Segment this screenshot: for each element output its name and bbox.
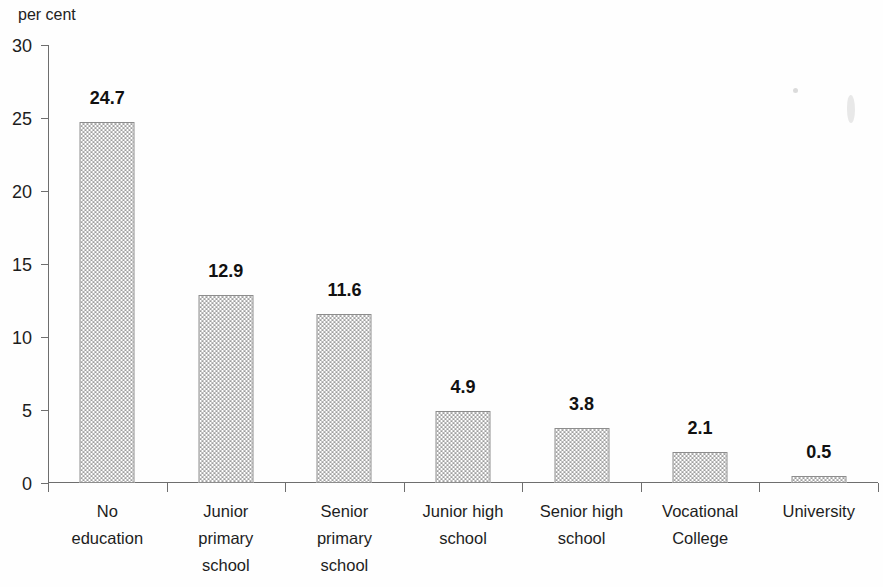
- category-label-line: primary: [285, 525, 404, 552]
- category-label-line: education: [48, 525, 167, 552]
- bar-slot: 0.5: [759, 45, 878, 483]
- category-label-line: No: [48, 498, 167, 525]
- x-axis-tick: [878, 483, 879, 492]
- bar-slot: 12.9: [167, 45, 286, 483]
- x-axis-tick: [641, 483, 642, 492]
- category-label-line: Senior: [285, 498, 404, 525]
- y-axis-tick-label: 25: [12, 110, 32, 128]
- bar-value-label: 24.7: [90, 88, 125, 108]
- x-axis-tick: [167, 483, 168, 492]
- bar-chart-figure: per cent 051015202530 24.712.911.64.93.8…: [0, 0, 883, 587]
- bar-value-label: 2.1: [688, 418, 713, 438]
- x-axis-tick: [759, 483, 760, 492]
- bar-value-label: 4.9: [450, 377, 475, 397]
- x-axis-category-label: Senior highschool: [522, 498, 641, 552]
- category-label-line: Junior high: [404, 498, 523, 525]
- category-label-line: Senior high: [522, 498, 641, 525]
- bar: [673, 452, 728, 483]
- x-axis-category-label: University: [759, 498, 878, 525]
- bar-value-label: 12.9: [208, 261, 243, 281]
- bar: [317, 314, 372, 483]
- x-axis-category-labels: NoeducationJuniorprimaryschoolSeniorprim…: [48, 498, 878, 584]
- scan-speck-artifact: [793, 88, 798, 93]
- x-axis-tick: [285, 483, 286, 492]
- bar-slot: 3.8: [522, 45, 641, 483]
- scan-smudge-artifact: [847, 95, 855, 123]
- bar-slot: 11.6: [285, 45, 404, 483]
- y-axis-tick-label: 30: [12, 37, 32, 55]
- x-axis-category-label: Junior highschool: [404, 498, 523, 552]
- category-label-line: school: [404, 525, 523, 552]
- bar: [80, 122, 135, 483]
- bar: [198, 295, 253, 483]
- x-axis-tick: [48, 483, 49, 492]
- x-axis-category-label: Noeducation: [48, 498, 167, 552]
- bar-slot: 2.1: [641, 45, 760, 483]
- x-axis-tick: [404, 483, 405, 492]
- bar-slot: 4.9: [404, 45, 523, 483]
- y-axis-tick-label: 5: [22, 402, 32, 420]
- plot-area: 051015202530 24.712.911.64.93.82.10.5: [48, 45, 878, 483]
- category-label-line: school: [285, 552, 404, 579]
- category-label-line: school: [522, 525, 641, 552]
- bar: [791, 476, 846, 483]
- x-axis-category-label: Seniorprimaryschool: [285, 498, 404, 579]
- y-axis-tick-label: 10: [12, 329, 32, 347]
- bar-value-label: 3.8: [569, 394, 594, 414]
- y-axis-tick-label: 15: [12, 256, 32, 274]
- bar-value-label: 11.6: [327, 280, 361, 300]
- category-label-line: Junior: [167, 498, 286, 525]
- bar-series: 24.712.911.64.93.82.10.5: [48, 45, 878, 483]
- category-label-line: primary: [167, 525, 286, 552]
- y-axis-unit-caption: per cent: [18, 6, 76, 24]
- bar-value-label: 0.5: [806, 442, 831, 462]
- x-axis-category-label: Juniorprimaryschool: [167, 498, 286, 579]
- y-axis-tick-label: 0: [22, 475, 32, 493]
- category-label-line: school: [167, 552, 286, 579]
- category-label-line: Vocational: [641, 498, 760, 525]
- x-axis-category-label: VocationalCollege: [641, 498, 760, 552]
- bar-slot: 24.7: [48, 45, 167, 483]
- category-label-line: University: [759, 498, 878, 525]
- x-axis-tick: [522, 483, 523, 492]
- y-axis-tick-label: 20: [12, 183, 32, 201]
- category-label-line: College: [641, 525, 760, 552]
- bar: [435, 411, 490, 483]
- bar: [554, 428, 609, 483]
